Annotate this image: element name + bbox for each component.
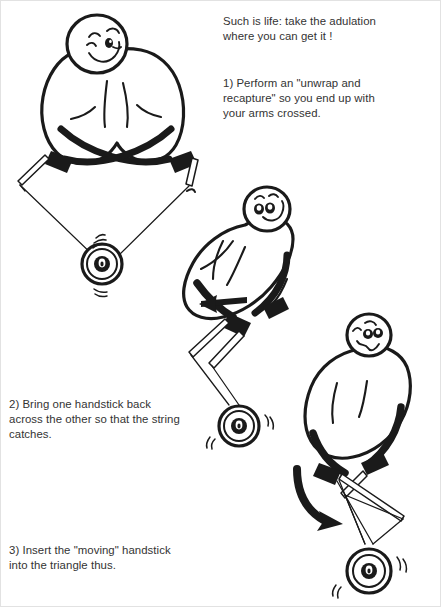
- figure-2-hand: [222, 313, 251, 337]
- figure-2-hand-upper: [263, 297, 289, 319]
- figure-2-handstick-a: [189, 319, 229, 357]
- figure-2-arms: [197, 255, 287, 337]
- figure-3-handsticks: [339, 471, 404, 521]
- figure-3-eyebrow-left: [353, 328, 361, 331]
- figure-1-body: [42, 49, 184, 164]
- figure-2-eye-right: [265, 203, 275, 214]
- figure-3-wavy-mouth: [357, 341, 379, 350]
- figure-1-handstick-right: [186, 158, 198, 186]
- figure-3-eyebrow-right: [365, 321, 376, 325]
- figure-3-head: [347, 314, 391, 356]
- figure-1-eyebrow-right: [107, 29, 119, 33]
- figure-2-head: [244, 187, 290, 231]
- figure-1-head: [67, 15, 127, 73]
- figure-3-body: [305, 346, 410, 458]
- caption-step-2: 2) Bring one handstick back across the o…: [9, 397, 224, 443]
- figure-1-handsticks: [18, 155, 198, 186]
- figure-2-eye-left: [254, 204, 264, 215]
- figure-1-string: [20, 185, 189, 259]
- figure-2-eyebrow-left: [255, 196, 264, 199]
- figure-1-handstick-left: [18, 155, 49, 185]
- figure-2-handstick-b: [209, 331, 244, 368]
- figure-2-handsticks: [189, 297, 289, 368]
- figure-2-body: [184, 216, 293, 318]
- figure-1-smile: [89, 42, 119, 62]
- figure-1-eyebrow-left: [89, 33, 100, 37]
- figure-1-eye-wink: [87, 43, 96, 46]
- figure-2-stray-mark: [187, 189, 195, 192]
- figure-2-eyebrow-right: [269, 194, 278, 197]
- figure-3-hand-left: [313, 463, 341, 485]
- figure-2-smile: [263, 201, 284, 220]
- figure-1-crossed-arms: [45, 129, 197, 173]
- figure-3-eye-right: [373, 328, 383, 338]
- figure-3-eye-left: [363, 329, 373, 339]
- page-canvas: .ink{fill:#1a1a1a;} .outline{fill:#fffff…: [0, 0, 441, 607]
- top-cut-text-fragment: [151, 1, 401, 6]
- figure-3-handstick-moving: [341, 471, 367, 498]
- figure-3-handstick-fixed: [339, 474, 404, 521]
- figure-1-hand-right: [169, 151, 197, 173]
- figure-1-eye-open: [105, 38, 113, 48]
- figure-3: [297, 314, 410, 598]
- figure-3-spin-marks: [333, 557, 407, 598]
- figure-1-hand-left: [45, 151, 73, 173]
- motion-arrow-curved-down: [297, 469, 343, 531]
- figure-1-diabolo: [82, 235, 122, 297]
- figure-3-arms: [313, 407, 401, 485]
- figure-3-hand-right: [361, 453, 389, 475]
- figure-1-spin-marks: [93, 235, 107, 297]
- motion-arrow-left: [199, 295, 247, 313]
- figure-3-diabolo: [333, 549, 407, 598]
- figure-1: [18, 15, 198, 297]
- caption-intro: Such is life: take the adulation where y…: [223, 14, 438, 44]
- caption-step-3: 3) Insert the "moving" handstick into th…: [9, 543, 224, 573]
- figure-3-string-triangle: [337, 480, 403, 544]
- caption-step-1: 1) Perform an "unwrap and recapture" so …: [223, 76, 438, 122]
